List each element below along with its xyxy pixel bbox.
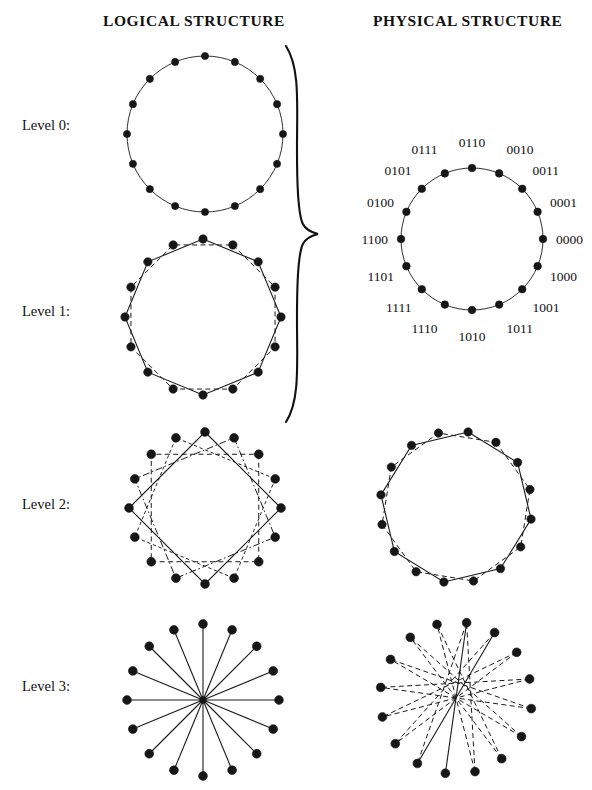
graph-node	[464, 428, 472, 436]
graph-node	[201, 52, 208, 59]
graph-edge-set	[135, 438, 275, 578]
graph-node	[468, 164, 476, 172]
graph-node	[146, 186, 153, 193]
graph-node	[231, 202, 238, 209]
graph-node	[275, 696, 284, 705]
logical-level-0-diagram	[120, 48, 290, 220]
graph-node	[496, 564, 504, 572]
graph-node	[145, 749, 154, 758]
graph-node	[413, 759, 422, 768]
graph-node	[254, 450, 263, 459]
graph-hub-node	[200, 697, 207, 704]
node-address-label: 0000	[556, 232, 583, 247]
physical-level-2-diagram	[362, 422, 550, 592]
graph-node	[269, 725, 278, 734]
graph-node	[252, 749, 261, 758]
graph-node	[527, 515, 535, 523]
graph-node	[390, 547, 398, 555]
graph-node	[377, 491, 385, 499]
graph-node	[440, 578, 448, 586]
graph-node	[406, 633, 415, 642]
physical-structure-header: PHYSICAL STRUCTURE	[373, 12, 563, 30]
node-address-label: 0010	[507, 142, 534, 157]
column-headers: LOGICAL STRUCTURE PHYSICAL STRUCTURE	[0, 0, 592, 40]
level-label-1: Level 1:	[22, 303, 70, 320]
graph-edge-set	[467, 623, 475, 772]
graph-node	[144, 368, 152, 376]
graph-node	[418, 185, 426, 193]
graph-node	[512, 648, 521, 657]
graph-node	[518, 185, 526, 193]
graph-node	[127, 343, 135, 351]
graph-node	[517, 732, 526, 741]
graph-node	[526, 485, 534, 493]
graph-node	[254, 258, 262, 266]
graph-node	[127, 283, 135, 291]
graph-node	[277, 504, 286, 513]
node-address-label: 0011	[533, 163, 560, 178]
graph-node	[386, 655, 395, 664]
graph-edge-set	[149, 700, 203, 754]
graph-node	[128, 667, 137, 676]
node-address-label: 1010	[459, 329, 486, 344]
graph-node	[271, 475, 280, 484]
logical-structure-header: LOGICAL STRUCTURE	[103, 12, 285, 30]
graph-node	[495, 301, 503, 309]
graph-node	[527, 704, 536, 713]
graph-node	[397, 235, 405, 243]
node-address-label: 1110	[411, 321, 437, 336]
graph-node	[199, 391, 207, 399]
graph-node	[539, 235, 547, 243]
graph-node	[518, 285, 526, 293]
node-address-label: 0100	[367, 195, 394, 210]
logical-level-1-diagram	[112, 228, 294, 406]
graph-node	[147, 557, 156, 566]
graph-node	[407, 441, 415, 449]
logical-level-2-diagram	[112, 424, 298, 592]
graph-edge-set	[410, 637, 521, 736]
graph-node	[121, 313, 129, 321]
graph-node	[228, 625, 237, 634]
graph-node	[230, 574, 239, 583]
graph-node	[471, 767, 480, 776]
graph-node	[130, 533, 139, 542]
graph-node	[418, 285, 426, 293]
node-address-label: 0111	[411, 142, 437, 157]
graph-node	[441, 301, 449, 309]
graph-node	[201, 428, 210, 437]
graph-edge-set	[381, 432, 531, 582]
graph-node	[534, 208, 542, 216]
graph-node	[123, 696, 132, 705]
graph-node	[144, 258, 152, 266]
graph-node	[403, 208, 411, 216]
graph-node	[492, 438, 500, 446]
graph-node	[129, 101, 136, 108]
graph-node	[513, 458, 521, 466]
node-address-label: 0001	[550, 195, 577, 210]
graph-node	[130, 475, 139, 484]
graph-node	[172, 202, 179, 209]
node-address-label: 0110	[459, 135, 486, 150]
graph-node	[387, 463, 395, 471]
graph-node	[434, 429, 442, 437]
graph-node	[254, 368, 262, 376]
graph-edge-set	[131, 245, 275, 389]
physical-level-0-1-diagram: 0110001000110001000010001001101110101110…	[356, 126, 588, 358]
graph-edge-set	[437, 624, 502, 758]
graph-node	[441, 170, 449, 178]
graph-node	[462, 618, 471, 627]
graph-node	[254, 557, 263, 566]
graph-edge-set	[203, 700, 257, 754]
graph-node	[199, 772, 208, 781]
level-label-2: Level 2:	[22, 496, 70, 513]
node-address-label: 1001	[533, 300, 560, 315]
graph-node	[257, 186, 264, 193]
graph-node	[516, 543, 524, 551]
graph-node	[231, 58, 238, 65]
graph-node	[403, 262, 411, 270]
graph-node	[391, 739, 400, 748]
graph-node	[376, 683, 385, 692]
graph-edge-set	[149, 646, 203, 700]
graph-node	[199, 620, 208, 629]
graph-node	[468, 306, 476, 314]
